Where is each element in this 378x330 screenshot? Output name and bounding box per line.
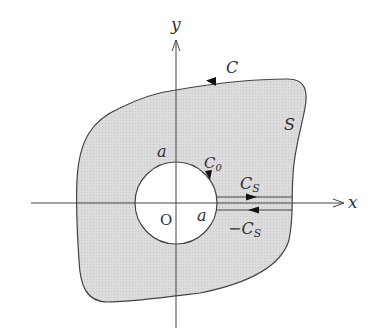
x-axis-label: x xyxy=(348,192,358,212)
outer-contour-label: C xyxy=(226,58,238,77)
region-label-s: S xyxy=(284,115,295,134)
contour-diagram: y x O S C C0 a a CS −CS xyxy=(0,0,378,330)
y-axis-label: y xyxy=(170,14,181,34)
radius-label-right: a xyxy=(197,206,207,225)
radius-label-top: a xyxy=(157,142,167,161)
origin-label: O xyxy=(160,211,172,229)
